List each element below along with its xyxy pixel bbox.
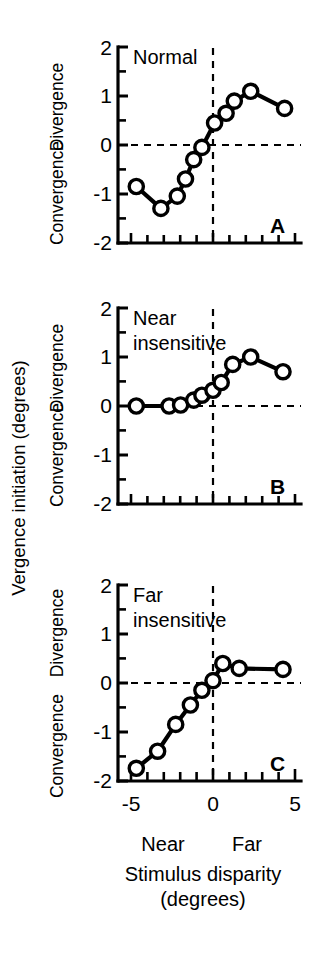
panel-c-title-line1: Far xyxy=(133,584,163,606)
panel-b-ytick-m2: -2 xyxy=(93,492,112,515)
panel-a-ytick-1: 1 xyxy=(100,84,112,107)
panel-b-ytick-m1: -1 xyxy=(93,443,112,466)
panel-c-ytick-0: 0 xyxy=(100,671,112,694)
panel-b: Divergence Convergence 2 1 0 -1 -2 xyxy=(47,297,301,515)
panel-b-ytick-2: 2 xyxy=(100,297,112,320)
panel-a-ytick-m2: -2 xyxy=(93,231,112,254)
panel-c-title-line2: insensitive xyxy=(133,609,226,631)
panel-c-letter: C xyxy=(270,752,285,775)
x-far-label: Far xyxy=(232,833,262,855)
panel-c-ytick-m2: -2 xyxy=(93,769,112,792)
panel-a-ytick-0: 0 xyxy=(100,133,112,156)
panel-a-title: Normal xyxy=(133,46,197,68)
panel-a-letter: A xyxy=(270,214,285,237)
panel-c-divergence-label: Divergence xyxy=(47,589,67,678)
panel-c-ytick-2: 2 xyxy=(100,574,112,597)
panel-c-markers xyxy=(129,656,290,775)
panel-a-ytick-m1: -1 xyxy=(93,182,112,205)
panel-a-convergence-label: Convergence xyxy=(47,141,67,245)
panel-b-ytick-1: 1 xyxy=(100,345,112,368)
panel-c-convergence-label: Convergence xyxy=(47,694,67,798)
panel-b-convergence-label: Convergence xyxy=(47,403,67,507)
panel-a-divergence-label: Divergence xyxy=(47,63,67,152)
panel-b-title-line1: Near xyxy=(133,307,177,329)
panel-c-ytick-1: 1 xyxy=(100,622,112,645)
panel-b-title-line2: insensitive xyxy=(133,332,226,354)
panel-b-divergence-label: Divergence xyxy=(47,324,67,413)
panel-b-markers xyxy=(129,350,290,413)
x-axis-labels: -5 0 5 Near Far Stimulus disparity (degr… xyxy=(122,792,301,910)
panel-c: Divergence Convergence 2 1 0 -1 -2 xyxy=(47,574,301,798)
xtick-zero: 0 xyxy=(207,792,219,815)
figure-svg: Vergence initiation (degrees) Divergence… xyxy=(0,0,314,953)
panel-b-ytick-0: 0 xyxy=(100,394,112,417)
xtick-minus5: -5 xyxy=(122,792,141,815)
shared-y-axis-label: Vergence initiation (degrees) xyxy=(8,360,29,596)
panel-a-series-line xyxy=(136,91,284,208)
x-axis-title-line1: Stimulus disparity xyxy=(125,863,282,885)
figure-vergence-initiation: Vergence initiation (degrees) Divergence… xyxy=(0,0,314,953)
x-near-label: Near xyxy=(141,833,185,855)
panel-b-letter: B xyxy=(270,475,285,498)
panel-a: Divergence Convergence 2 1 0 -1 -2 xyxy=(47,36,301,254)
panel-a-ytick-2: 2 xyxy=(100,36,112,59)
panel-c-ytick-m1: -1 xyxy=(93,720,112,743)
x-axis-title-line2: (degrees) xyxy=(160,888,246,910)
xtick-plus5: 5 xyxy=(289,792,301,815)
panel-a-markers xyxy=(129,84,292,215)
